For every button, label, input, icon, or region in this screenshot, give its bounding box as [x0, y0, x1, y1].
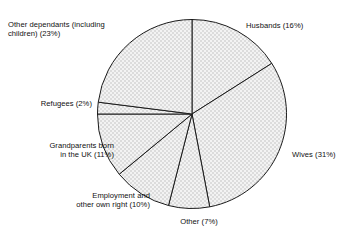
slice-label-employment: Employment and other own right (10%) — [40, 191, 150, 210]
slice-label-grandparents: Grandparents born in the UK (11%) — [6, 141, 114, 160]
pie-slices-group — [98, 20, 287, 209]
slice-label-other: Other (7%) — [164, 217, 234, 226]
pie-chart-figure: Other dependants (including children) (2… — [0, 0, 346, 238]
slice-label-refugees: Refugees (2%) — [14, 99, 92, 108]
slice-label-wives: Wives (31%) — [292, 150, 346, 159]
slice-label-husbands: Husbands (16%) — [246, 21, 342, 30]
slice-label-other-dependants: Other dependants (including children) (2… — [8, 20, 140, 39]
